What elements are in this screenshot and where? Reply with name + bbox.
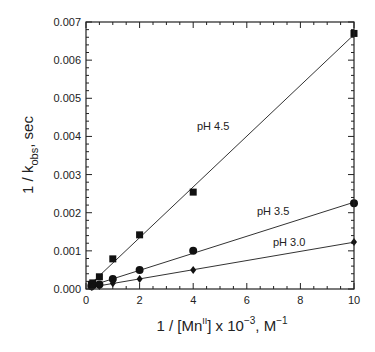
x-tick-label: 6	[244, 294, 250, 306]
y-axis-title: 1 / kobs, sec	[19, 116, 40, 194]
x-tick-label: 8	[297, 294, 303, 306]
circle-marker	[189, 247, 197, 255]
series-label-ph35: pH 3.5	[257, 205, 289, 217]
y-tick-label: 0.001	[53, 245, 81, 257]
y-tick-label: 0.005	[53, 92, 81, 104]
y-tick-label: 0.006	[53, 54, 81, 66]
diamond-marker	[137, 275, 143, 283]
y-tick-label: 0.004	[53, 130, 81, 142]
fit-line	[90, 202, 354, 286]
square-marker	[190, 189, 197, 196]
y-axis-title-sub: obs	[28, 147, 40, 165]
x-tick-label: 0	[83, 294, 89, 306]
circle-marker	[136, 266, 144, 274]
y-axis-title-main: 1 / k	[19, 165, 36, 194]
chart: 02468100.0000.0010.0020.0030.0040.0050.0…	[0, 0, 375, 352]
x-axis-title: 1 / [MnII] x 10−3, M−1	[156, 315, 288, 334]
square-marker	[136, 231, 143, 238]
svg-text:1 / kobs, sec: 1 / kobs, sec	[19, 116, 40, 194]
fit-line	[90, 242, 354, 287]
fit-lines	[90, 35, 354, 288]
diamond-marker	[190, 266, 196, 274]
x-axis-title-c: , M	[255, 317, 276, 334]
y-tick-label: 0.007	[53, 16, 81, 28]
fit-line	[90, 35, 354, 285]
x-tick-label: 2	[137, 294, 143, 306]
x-axis-title-b: ] x 10	[207, 317, 244, 334]
series-label-ph30: pH 3.0	[273, 236, 305, 248]
square-marker	[109, 255, 116, 262]
x-axis-title-exp2: −1	[276, 315, 288, 326]
y-tick-label: 0.000	[53, 283, 81, 295]
axis-ticks: 02468100.0000.0010.0020.0030.0040.0050.0…	[53, 16, 360, 306]
x-tick-label: 4	[190, 294, 196, 306]
series-label-ph45: pH 4.5	[197, 120, 229, 132]
x-axis-title-exp: −3	[244, 315, 256, 326]
x-tick-label: 10	[348, 294, 360, 306]
square-marker	[96, 273, 103, 280]
y-axis-title-tail: , sec	[19, 116, 36, 148]
y-tick-label: 0.003	[53, 169, 81, 181]
x-axis-title-a: 1 / [Mn	[156, 317, 202, 334]
y-tick-label: 0.002	[53, 207, 81, 219]
